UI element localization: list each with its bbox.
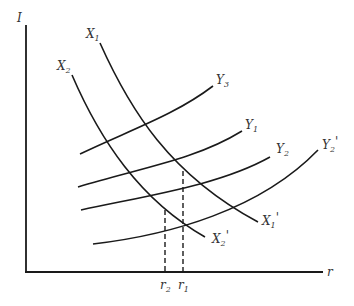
curve-x1 (100, 43, 258, 222)
x-axis-label: r (327, 265, 334, 279)
curve-y3 (80, 86, 213, 154)
curve-y2-prime (93, 150, 318, 244)
r2-tick-label: r2 (160, 278, 171, 294)
x2-prime-label: X2' (211, 229, 229, 248)
y-axis-label: I (16, 11, 22, 25)
x1-start-label: X1 (85, 27, 100, 43)
curve-y2 (81, 157, 270, 210)
x1-prime-label: X1' (261, 211, 279, 230)
x2-start-label: X2 (56, 59, 71, 75)
diagram-canvas: I r X1 X2 X1' X2' Y3 Y1 Y2 Y2' r2 r1 (0, 0, 354, 306)
y3-label: Y3 (216, 73, 229, 89)
y1-label: Y1 (245, 118, 258, 134)
y2-label: Y2 (276, 142, 289, 158)
y2-prime-label: Y2' (322, 135, 338, 154)
r1-tick-label: r1 (178, 278, 189, 294)
